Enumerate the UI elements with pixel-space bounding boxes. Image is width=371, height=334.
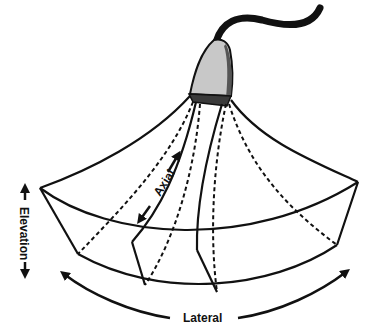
axial-arrow-down-icon xyxy=(140,206,150,220)
beam-wireframe xyxy=(40,96,358,292)
cable xyxy=(216,8,320,42)
diagram-canvas: Axial Elevation Lateral xyxy=(0,0,371,334)
hidden-edges xyxy=(78,102,337,292)
elevation-label: Elevation xyxy=(17,207,31,260)
lateral-label: Lateral xyxy=(183,311,222,325)
beam-diagram: Axial Elevation Lateral xyxy=(0,0,371,334)
